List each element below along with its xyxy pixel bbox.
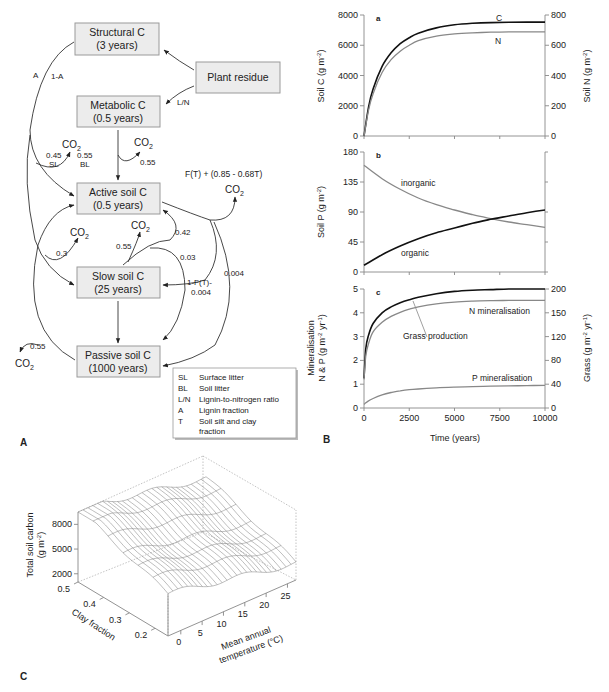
soil-carbon-surface-3d: 2000500080000.50.40.30.20510152025 Total… (0, 0, 609, 692)
svg-text:15: 15 (238, 609, 248, 619)
svg-text:25: 25 (280, 591, 290, 601)
svg-text:5: 5 (198, 628, 203, 638)
svg-text:0.3: 0.3 (109, 615, 122, 625)
svg-text:20: 20 (259, 600, 269, 610)
svg-text:2000: 2000 (52, 569, 72, 579)
svg-text:0.2: 0.2 (135, 630, 148, 640)
svg-text:8000: 8000 (52, 519, 72, 529)
surface-mesh (78, 477, 296, 636)
svg-text:0: 0 (176, 637, 181, 647)
svg-text:0.5: 0.5 (57, 584, 70, 594)
svg-text:0.4: 0.4 (83, 599, 96, 609)
svg-text:5000: 5000 (52, 544, 72, 554)
svg-text:(g m-2): (g m-2) (36, 532, 46, 558)
axis-label-total-soil-carbon: Total soil carbon (25, 512, 35, 577)
svg-text:10: 10 (216, 619, 226, 629)
